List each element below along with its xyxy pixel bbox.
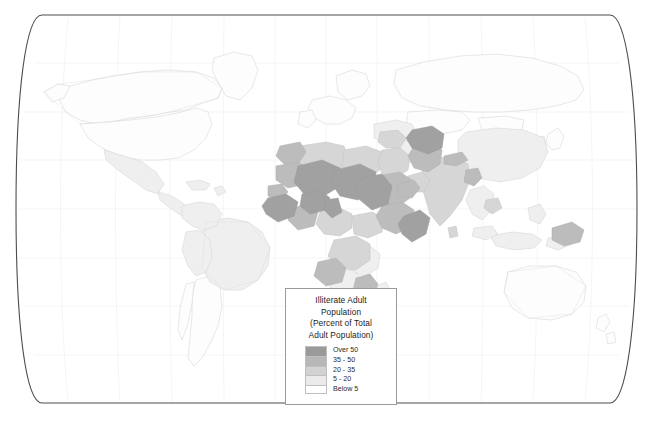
legend-item-below-5: Below 5 — [305, 385, 358, 395]
legend-title-line-1: Illiterate Adult — [291, 295, 391, 307]
legend-item-20-35: 20 - 35 — [305, 366, 355, 376]
legend-item-5-20: 5 - 20 — [305, 375, 351, 385]
legend-swatch-below-5 — [305, 385, 327, 395]
legend-label-over-50: Over 50 — [333, 346, 358, 356]
legend-title-line-4: Adult Population) — [291, 330, 391, 342]
legend-title: Illiterate Adult Population (Percent of … — [291, 295, 391, 341]
legend-items: Over 50 35 - 50 20 - 35 5 - 20 Below 5 — [291, 346, 391, 394]
legend-item-35-50: 35 - 50 — [305, 356, 355, 366]
world-map: Illiterate Adult Population (Percent of … — [0, 0, 652, 428]
legend-label-5-20: 5 - 20 — [333, 375, 351, 385]
legend-item-over-50: Over 50 — [305, 346, 358, 356]
map-legend: Illiterate Adult Population (Percent of … — [285, 288, 397, 405]
legend-swatch-20-35 — [305, 366, 327, 376]
legend-title-line-2: Population — [291, 307, 391, 319]
legend-swatch-35-50 — [305, 356, 327, 366]
legend-label-below-5: Below 5 — [333, 385, 358, 395]
legend-title-line-3: (Percent of Total — [291, 318, 391, 330]
legend-label-20-35: 20 - 35 — [333, 366, 355, 376]
legend-label-35-50: 35 - 50 — [333, 356, 355, 366]
legend-swatch-over-50 — [305, 346, 327, 356]
legend-swatch-5-20 — [305, 375, 327, 385]
